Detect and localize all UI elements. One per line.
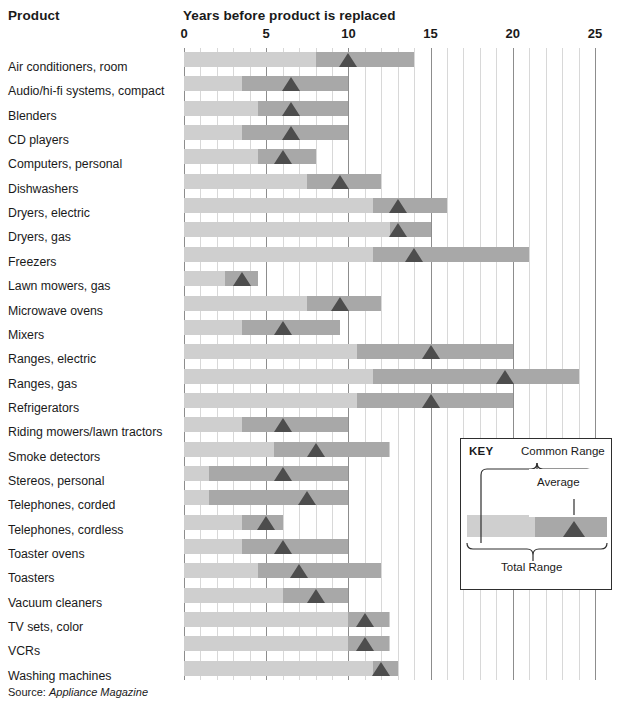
average-marker-icon: [282, 126, 300, 140]
product-label: Stereos, personal: [8, 474, 104, 488]
gridline-4: [250, 48, 251, 680]
key-common-range-label: Common Range: [521, 445, 605, 457]
product-label: Riding mowers/lawn tractors: [8, 425, 162, 439]
chart-key-box: KEY Common Range Average Total Range: [460, 438, 612, 590]
average-marker-icon: [282, 77, 300, 91]
gridline-1: [200, 48, 201, 680]
average-marker-icon: [331, 297, 349, 311]
bar-row: [184, 344, 595, 359]
bar-row: [184, 369, 595, 384]
gridline-16: [447, 48, 448, 680]
average-marker-icon: [422, 394, 440, 408]
gridline-13: [398, 48, 399, 680]
bar-row: [184, 271, 595, 286]
common-range-bar: [373, 369, 579, 384]
product-label: Freezers: [8, 255, 57, 269]
bar-row: [184, 52, 595, 67]
product-label: Vacuum cleaners: [8, 596, 102, 610]
average-marker-icon: [290, 564, 308, 578]
gridline-6: [283, 48, 284, 680]
axis-title: Years before product is replaced: [183, 8, 396, 23]
product-label: Washing machines: [8, 669, 111, 683]
product-label: Refrigerators: [8, 401, 79, 415]
common-range-bar: [258, 563, 381, 578]
product-label: Lawn mowers, gas: [8, 279, 111, 293]
x-tick-25: 25: [588, 26, 602, 41]
product-label: Dishwashers: [8, 182, 78, 196]
bar-row: [184, 612, 595, 627]
product-label: VCRs: [8, 644, 40, 658]
product-label: Toaster ovens: [8, 547, 85, 561]
key-average-marker-icon: [563, 521, 585, 537]
average-marker-icon: [274, 467, 292, 481]
bar-row: [184, 125, 595, 140]
x-tick-15: 15: [423, 26, 437, 41]
average-marker-icon: [307, 443, 325, 457]
bar-row: [184, 661, 595, 676]
product-label: Blenders: [8, 109, 57, 123]
gridline-5: [266, 48, 267, 680]
gridline-9: [332, 48, 333, 680]
column-header-product: Product: [8, 8, 60, 23]
bar-row: [184, 101, 595, 116]
average-marker-icon: [389, 199, 407, 213]
product-label: Smoke detectors: [8, 450, 100, 464]
average-marker-icon: [257, 516, 275, 530]
gridline-15: [431, 48, 432, 680]
common-range-bar: [242, 417, 349, 432]
gridline-10: [348, 48, 349, 680]
common-range-bar: [242, 539, 349, 554]
source-name: Appliance Magazine: [49, 686, 148, 698]
common-range-bar: [316, 52, 415, 67]
average-marker-icon: [274, 540, 292, 554]
bar-row: [184, 247, 595, 262]
bar-row: [184, 296, 595, 311]
key-title: KEY: [469, 445, 494, 457]
gridline-14: [414, 48, 415, 680]
product-label: CD players: [8, 133, 69, 147]
average-marker-icon: [422, 345, 440, 359]
gridline-3: [233, 48, 234, 680]
product-label: Toasters: [8, 571, 54, 585]
common-range-bar: [373, 198, 447, 213]
average-marker-icon: [339, 53, 357, 67]
average-marker-icon: [389, 223, 407, 237]
gridline-8: [316, 48, 317, 680]
average-marker-icon: [307, 589, 325, 603]
product-label: Audio/hi-fi systems, compact: [8, 84, 165, 98]
gridline-2: [217, 48, 218, 680]
product-label: Dryers, electric: [8, 206, 90, 220]
product-label: Ranges, electric: [8, 352, 96, 366]
average-marker-icon: [274, 150, 292, 164]
average-marker-icon: [282, 102, 300, 116]
product-label: Dryers, gas: [8, 230, 71, 244]
product-label: Mixers: [8, 328, 44, 342]
average-marker-icon: [496, 370, 514, 384]
bar-row: [184, 320, 595, 335]
average-marker-icon: [356, 613, 374, 627]
average-marker-icon: [274, 321, 292, 335]
average-marker-icon: [356, 637, 374, 651]
x-tick-0: 0: [180, 26, 187, 41]
bar-row: [184, 198, 595, 213]
common-range-bar: [373, 247, 529, 262]
average-marker-icon: [233, 272, 251, 286]
average-marker-icon: [405, 248, 423, 262]
gridline-0: [184, 48, 185, 680]
product-label: Ranges, gas: [8, 377, 77, 391]
source-note: Source: Appliance Magazine: [8, 686, 148, 698]
product-label: Microwave ovens: [8, 304, 103, 318]
bar-row: [184, 222, 595, 237]
bar-row: [184, 76, 595, 91]
average-marker-icon: [331, 175, 349, 189]
average-marker-icon: [274, 418, 292, 432]
source-prefix: Source:: [8, 686, 46, 698]
bar-row: [184, 174, 595, 189]
product-label: Air conditioners, room: [8, 60, 128, 74]
bar-row: [184, 417, 595, 432]
product-label: TV sets, color: [8, 620, 83, 634]
gridline-7: [299, 48, 300, 680]
bar-row: [184, 149, 595, 164]
bar-row: [184, 393, 595, 408]
x-tick-20: 20: [506, 26, 520, 41]
